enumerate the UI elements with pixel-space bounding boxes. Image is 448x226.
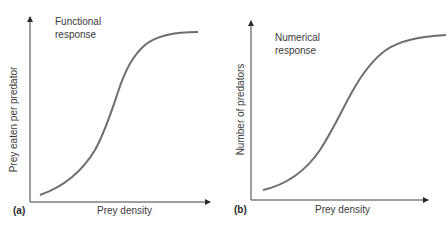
panel-a-title: Functional response: [55, 15, 101, 41]
panel-b-tag: (b): [234, 204, 247, 215]
figure: Functional response (a) Prey density Pre…: [0, 0, 448, 226]
panel-a-curve: [40, 32, 198, 195]
panel-a-title-line1: Functional: [55, 15, 101, 28]
panel-a-x-label: Prey density: [97, 205, 152, 217]
panel-b-title-line1: Numerical: [275, 31, 320, 44]
panel-b-curve: [263, 35, 446, 190]
panel-b-x-label: Prey density: [315, 204, 370, 216]
panel-a-tag: (a): [13, 205, 25, 216]
panel-b-title: Numerical response: [275, 31, 320, 57]
panel-a-axes: [30, 17, 210, 202]
panel-b-y-label: Number of predators: [235, 60, 246, 160]
panel-b-title-line2: response: [275, 44, 320, 57]
panel-a-title-line2: response: [55, 28, 101, 41]
panel-a-y-label: Prey eaten per predator: [8, 61, 19, 179]
